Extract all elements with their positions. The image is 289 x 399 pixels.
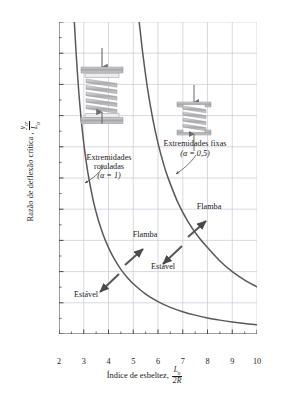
x-axis-title-text: Índice de esbeltez, <box>107 371 169 380</box>
coil-turn <box>183 112 206 119</box>
x-tick-label: 4 <box>97 358 121 366</box>
annotation-pinned-ends: Extremidades rotuladas (α = 1) <box>67 153 151 181</box>
x-axis-title-fraction: Lo 2R <box>172 366 182 385</box>
x-axis-title: Índice de esbeltez, Lo 2R <box>0 366 289 385</box>
annotation-estavel-right: Estável <box>139 262 187 271</box>
y-axis-title-text: Razão de deflexão crítica , <box>26 132 35 221</box>
x-tick-label: 8 <box>196 358 220 366</box>
x-tick-label: 5 <box>121 358 145 366</box>
plot-area: 1,00,90,80,70,60,50,40,30,20,10 23456789… <box>59 22 257 334</box>
x-frac-numerator-subscript: o <box>178 369 181 375</box>
spring-buckling-chart-figure: Razão de deflexão crítica , ycr Lo Índic… <box>0 0 289 399</box>
x-tick-label: 3 <box>72 358 96 366</box>
top-cap-pinned <box>85 74 119 78</box>
annotation-pinned-alpha: (α = 1) <box>67 171 151 180</box>
y-frac-numerator: y <box>18 126 27 129</box>
annotation-estavel-left: Estável <box>62 290 110 299</box>
annotation-fixed-ends: Extremidades fixas (α = 0,5) <box>152 139 238 158</box>
y-axis-title-fraction: ycr Lo <box>19 121 40 131</box>
annotation-pinned-line1: Extremidades <box>67 153 151 162</box>
annotation-fixed-alpha: (α = 0,5) <box>152 149 238 158</box>
coil-turn <box>183 118 206 125</box>
coil-turn <box>183 124 206 131</box>
annotation-fixed-line1: Extremidades fixas <box>152 139 238 148</box>
annotation-pinned-line2: rotuladas <box>67 162 151 171</box>
x-tick-label: 6 <box>146 358 170 366</box>
x-tick-label: 7 <box>171 358 195 366</box>
spring-diagram-pinned-ends <box>81 48 123 124</box>
y-axis-title: Razão de deflexão crítica , ycr Lo <box>19 41 41 301</box>
y-frac-denominator: L <box>30 125 39 129</box>
coil-group-fixed <box>183 106 206 131</box>
top-fixed-support <box>177 102 211 107</box>
annotation-flamba-right: Flamba <box>185 202 233 211</box>
x-tick-label: 10 <box>245 358 269 366</box>
x-frac-denominator: 2R <box>172 376 182 385</box>
y-frac-denominator-subscript: o <box>34 122 40 125</box>
x-tick-label: 2 <box>47 358 71 366</box>
coil-turn <box>183 106 206 113</box>
annotation-flamba-left: Flamba <box>121 230 169 239</box>
top-support-plate-pinned <box>81 67 123 73</box>
x-tick-label: 9 <box>220 358 244 366</box>
y-frac-numerator-subscript: cr <box>22 122 28 126</box>
